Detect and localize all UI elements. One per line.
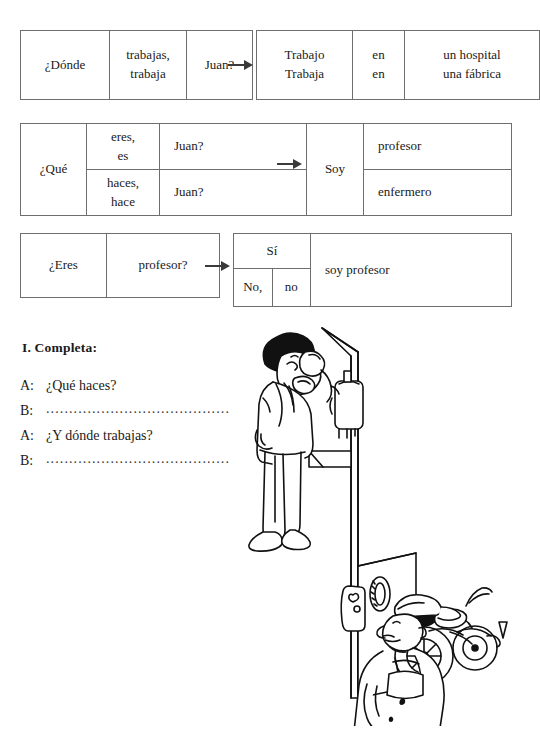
line-trabajas: trabajas, [114, 46, 182, 65]
arrow-head [244, 60, 253, 70]
arrow-shaft [205, 265, 221, 267]
line-en-2: en [357, 65, 400, 84]
arrow-2 [277, 158, 302, 170]
cell-hospital-fabrica: un hospital una fábrica [405, 31, 540, 100]
answer-blank[interactable]: ........................................ [46, 451, 255, 467]
line-haces: haces, [91, 174, 155, 193]
arrow-3 [205, 260, 230, 272]
line-trabaja-3p: Trabaja [261, 65, 348, 84]
table-donde-question: ¿Dónde trabajas, trabaja Juan? [20, 30, 253, 100]
arrow-1 [228, 59, 253, 71]
dialogue-text: ¿Qué haces? [46, 378, 116, 394]
speaker-label: A: [20, 378, 46, 394]
cell-donde: ¿Dónde [21, 31, 110, 100]
exercise-heading: I. Completa: [22, 340, 255, 356]
line-trabaja: trabaja [114, 65, 182, 84]
cell-en-en: en en [353, 31, 405, 100]
cell-si: Sí [234, 234, 311, 269]
table-eres-answer: Sí soy profesor No, no [233, 233, 512, 307]
dialogue-line: A: ¿Qué haces? [20, 378, 255, 394]
cell-enfermero: enfermero [364, 170, 512, 216]
table-eres-question: ¿Eres profesor? [20, 233, 220, 298]
arrow-shaft [277, 163, 293, 165]
cell-haces-hace: haces, hace [87, 170, 160, 216]
dialogue-line: B: .....................................… [20, 403, 255, 419]
cell-no-comma: No, [234, 269, 273, 307]
dialogue-text: ¿Y dónde trabajas? [46, 428, 153, 444]
arrow-shaft [228, 64, 244, 66]
line-trabajo: Trabajo [261, 46, 348, 65]
speaker-label: B: [20, 403, 46, 419]
cell-juan-2: Juan? [160, 170, 309, 216]
cell-no: no [272, 269, 311, 307]
cell-eres-q: ¿Eres [21, 234, 107, 298]
arrow-head [221, 261, 230, 271]
table-que-question: ¿Qué eres, es Juan? haces, hace Juan? [20, 123, 309, 216]
figure-office-worker [249, 333, 339, 551]
answer-blank[interactable]: ........................................ [46, 401, 255, 417]
line-una-fabrica: una fábrica [409, 65, 535, 84]
speaker-label: A: [20, 428, 46, 444]
cell-eres-es: eres, es [87, 124, 160, 170]
line-en-1: en [357, 46, 400, 65]
illustration-cartoon [243, 326, 530, 726]
line-un-hospital: un hospital [409, 46, 535, 65]
cell-trabajas-trabaja: trabajas, trabaja [110, 31, 187, 100]
dialogue-line: A: ¿Y dónde trabajas? [20, 428, 255, 444]
cell-soy: Soy [307, 124, 364, 216]
dialogue-line: B: .....................................… [20, 453, 255, 469]
cell-soy-profesor: soy profesor [311, 234, 512, 307]
cell-trabajo-trabaja: Trabajo Trabaja [257, 31, 353, 100]
table-que-answer: Soy profesor enfermero [306, 123, 512, 216]
cell-profesor-q: profesor? [107, 234, 220, 298]
line-eres: eres, [91, 128, 155, 147]
arrow-head [293, 159, 302, 169]
exercise-block: I. Completa: A: ¿Qué haces? B: .........… [20, 340, 255, 478]
table-donde-answer: Trabajo Trabaja en en un hospital una fá… [256, 30, 540, 100]
speaker-label: B: [20, 453, 46, 469]
line-es: es [91, 147, 155, 166]
line-hace: hace [91, 193, 155, 212]
cell-profesor: profesor [364, 124, 512, 170]
cell-que: ¿Qué [21, 124, 87, 216]
